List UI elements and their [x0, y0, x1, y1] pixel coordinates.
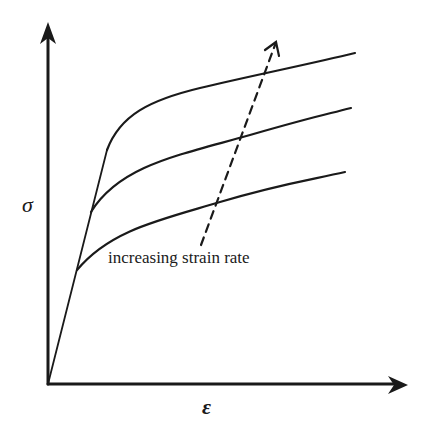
x-axis-label: ε	[202, 394, 211, 419]
stress-strain-diagram: σ ε increasing strain rate	[0, 0, 427, 430]
curve-high-strain-rate	[107, 53, 355, 150]
annotation-label: increasing strain rate	[108, 248, 250, 267]
elastic-line	[48, 150, 107, 384]
y-axis-label: σ	[22, 192, 34, 217]
curve-medium-strain-rate	[91, 108, 351, 212]
